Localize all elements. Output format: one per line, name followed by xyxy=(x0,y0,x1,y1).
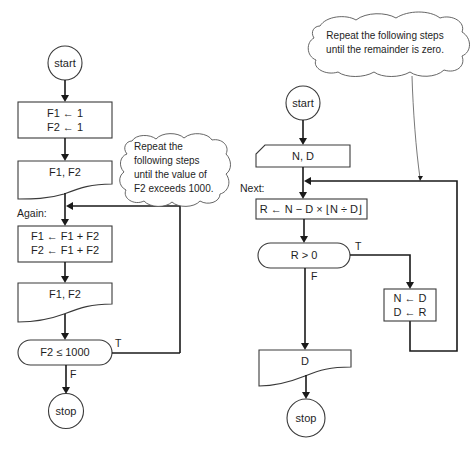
right-start-node: start xyxy=(286,86,320,120)
right-true-branch-connector xyxy=(350,255,410,283)
left-compute-line-2: F2 ← F1 + F2 xyxy=(31,244,99,256)
arrow-down-icon xyxy=(61,276,69,283)
right-swap-line-1: N ← D xyxy=(394,292,427,304)
arrow-down-icon xyxy=(299,138,307,145)
arrow-down-icon xyxy=(61,219,69,226)
right-decision-node: R > 0 xyxy=(258,243,350,268)
right-note-line-1: Repeat the following steps xyxy=(326,30,443,41)
arrow-left-icon xyxy=(304,177,311,185)
left-decision-node: F2 ≤ 1000 xyxy=(18,340,112,365)
arrow-down-icon xyxy=(300,236,308,243)
right-note-pointer xyxy=(412,76,420,178)
right-decision-label: R > 0 xyxy=(291,249,318,261)
left-start-label: start xyxy=(54,57,75,69)
left-compute-process: F1 ← F1 + F2 F2 ← F1 + F2 xyxy=(18,226,112,262)
left-output2-label: F1, F2 xyxy=(49,288,81,300)
gcd-flowchart: Repeat the following steps until the rem… xyxy=(240,12,470,437)
left-init-line-1: F1 ← 1 xyxy=(47,107,83,119)
arrow-down-icon xyxy=(299,192,307,199)
left-true-label: T xyxy=(115,337,122,349)
flowchart-diagrams: start F1 ← 1 F2 ← 1 F1, F2 Again: xyxy=(0,0,476,456)
arrow-left-icon xyxy=(66,202,73,210)
left-stop-label: stop xyxy=(56,405,77,417)
right-input-label: N, D xyxy=(292,150,314,162)
left-note-line-2: following steps xyxy=(134,155,200,166)
arrow-down-icon xyxy=(406,282,414,289)
right-stop-node: stop xyxy=(287,399,325,437)
arrow-down-icon xyxy=(61,95,69,102)
left-note-line-1: Repeat the xyxy=(134,141,183,152)
right-true-label: T xyxy=(355,240,362,252)
arrow-down-icon xyxy=(301,343,309,350)
arrow-down-icon xyxy=(61,154,69,161)
left-init-process: F1 ← 1 F2 ← 1 xyxy=(18,102,112,138)
left-false-label: F xyxy=(70,368,76,380)
left-start-node: start xyxy=(48,46,82,80)
left-stop-node: stop xyxy=(49,394,84,429)
left-note-line-4: F2 exceeds 1000. xyxy=(134,183,214,194)
right-output-document: D xyxy=(259,350,351,386)
right-compute-process: R ← N − D × ⌊N ÷ D⌋ xyxy=(256,199,367,219)
right-false-label: F xyxy=(311,270,317,282)
right-swap-line-2: D ← R xyxy=(394,306,427,318)
left-note-line-3: until the value of xyxy=(134,169,207,180)
right-input-node: N, D xyxy=(256,145,350,167)
arrow-down-icon xyxy=(302,392,310,399)
right-note-line-2: until the remainder is zero. xyxy=(326,44,444,55)
right-stop-label: stop xyxy=(296,412,317,424)
right-start-label: start xyxy=(292,97,313,109)
right-loop-label: Next: xyxy=(240,182,265,194)
right-output-label: D xyxy=(301,355,309,367)
right-compute-label: R ← N − D × ⌊N ÷ D⌋ xyxy=(260,203,363,215)
arrow-down-icon xyxy=(61,333,69,340)
left-decision-label: F2 ≤ 1000 xyxy=(40,346,89,358)
right-swap-process: N ← D D ← R xyxy=(384,289,436,321)
left-annotation-cloud: Repeat the following steps until the val… xyxy=(120,134,231,207)
left-loop-label: Again: xyxy=(17,207,47,219)
left-output1-label: F1, F2 xyxy=(49,166,81,178)
fibonacci-flowchart: start F1 ← 1 F2 ← 1 F1, F2 Again: xyxy=(17,46,231,429)
left-compute-line-1: F1 ← F1 + F2 xyxy=(31,230,99,242)
left-init-line-2: F2 ← 1 xyxy=(47,121,83,133)
